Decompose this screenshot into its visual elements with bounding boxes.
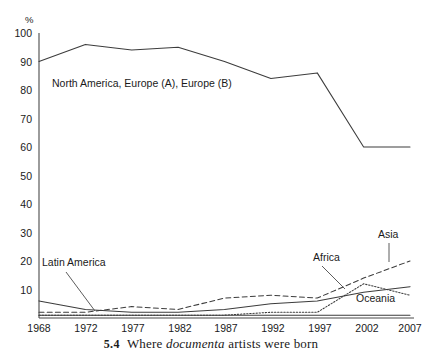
- caption-number: 5.4: [104, 337, 120, 351]
- x-tick-2002: 2002: [355, 322, 379, 334]
- y-tick-70: 70: [20, 113, 32, 125]
- y-tick-10: 10: [20, 284, 32, 296]
- figure-caption: 5.4Where documenta artists were born: [0, 336, 422, 352]
- series-label-latin-america: Latin America: [42, 256, 106, 268]
- x-tick-1992: 1992: [261, 322, 285, 334]
- leader-latin-america: [66, 272, 95, 311]
- y-tick-40: 40: [20, 198, 32, 210]
- x-tick-2007: 2007: [398, 322, 422, 334]
- y-tick-100: 100: [14, 27, 32, 39]
- caption-after-emphasis: artists were born: [225, 336, 319, 351]
- series-annotations: North America, Europe (A), Europe (B) La…: [42, 77, 399, 304]
- series-label-north-america-europe: North America, Europe (A), Europe (B): [52, 77, 232, 89]
- y-tick-30: 30: [20, 227, 32, 239]
- y-tick-80: 80: [20, 84, 32, 96]
- caption-emphasis: documenta: [166, 336, 225, 351]
- x-tick-1982: 1982: [168, 322, 192, 334]
- leader-africa: [322, 266, 345, 289]
- series-label-asia: Asia: [378, 228, 399, 240]
- series-label-oceania: Oceania: [356, 292, 395, 304]
- y-tick-20: 20: [20, 255, 32, 267]
- y-tick-90: 90: [20, 56, 32, 68]
- y-axis-unit-label: %: [25, 14, 34, 25]
- series-path-latin-america: [39, 287, 410, 313]
- series-label-africa: Africa: [313, 251, 340, 263]
- x-tick-1977: 1977: [121, 322, 145, 334]
- series-path-north-america-europe-a-europe-b: [39, 44, 410, 147]
- x-tick-1997: 1997: [308, 322, 332, 334]
- y-axis-tick-labels: 100 90 80 70 60 50 40 30 20 10: [14, 27, 32, 296]
- figure-container: % 100 90 80 70 60 50 40 30 20 10 1968 19…: [0, 0, 422, 359]
- caption-before-emphasis: Where: [127, 336, 166, 351]
- x-axis-tick-labels: 1968 1972 1977 1982 1987 1992 1997 2002 …: [27, 322, 422, 334]
- y-tick-60: 60: [20, 141, 32, 153]
- annotation-leaders: [66, 243, 389, 311]
- line-chart: % 100 90 80 70 60 50 40 30 20 10 1968 19…: [0, 0, 422, 359]
- x-tick-1972: 1972: [74, 322, 98, 334]
- x-tick-1968: 1968: [27, 322, 51, 334]
- series-path-asia: [39, 261, 410, 312]
- x-tick-1987: 1987: [214, 322, 238, 334]
- y-tick-50: 50: [20, 170, 32, 182]
